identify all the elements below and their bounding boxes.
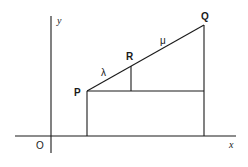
- origin-label: O: [36, 140, 44, 151]
- point-r-label: R: [126, 51, 134, 62]
- mu-label: μ: [160, 35, 166, 46]
- section-formula-diagram: y x O P Q R λ μ: [0, 0, 248, 167]
- segment-pq: [87, 25, 204, 91]
- point-p-label: P: [74, 87, 81, 98]
- y-axis-label: y: [56, 15, 62, 26]
- lambda-label: λ: [101, 67, 106, 78]
- point-q-label: Q: [201, 11, 209, 22]
- x-axis-label: x: [228, 139, 234, 150]
